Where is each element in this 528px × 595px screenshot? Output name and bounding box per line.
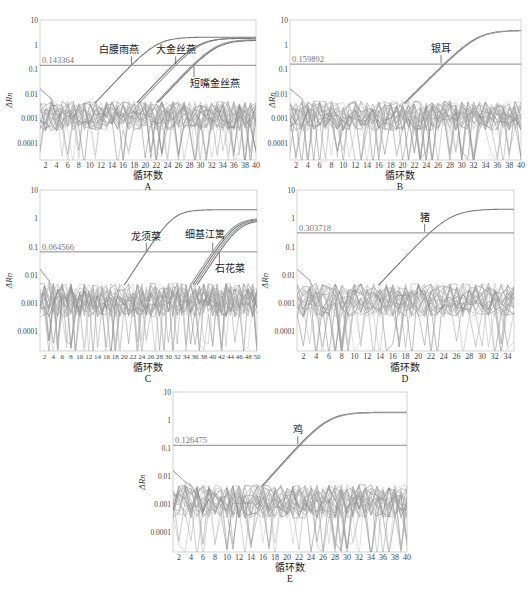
threshold-label: 0.303718 <box>299 223 331 233</box>
y-tick-label: 1 <box>284 41 288 50</box>
x-tick-label: 4 <box>52 353 56 361</box>
x-tick-label: 40 <box>517 161 525 170</box>
x-tick-label: 34 <box>504 352 512 361</box>
y-tick-label: 0.01 <box>25 90 38 99</box>
x-tick-label: 30 <box>478 352 486 361</box>
y-tick-label: 0.001 <box>21 114 38 123</box>
x-tick-label: 10 <box>350 352 358 361</box>
x-tick-label: 2 <box>43 353 47 361</box>
x-tick-label: 38 <box>200 353 208 361</box>
annotation-label: 鸡 <box>293 423 303 435</box>
x-tick-label: 26 <box>147 353 155 361</box>
panel-d: 1010.10.010.0010.0001ΔRn2468101214161820… <box>260 186 514 384</box>
x-tick-label: 4 <box>55 161 59 170</box>
x-tick-label: 16 <box>375 161 383 170</box>
x-tick-label: 6 <box>318 161 322 170</box>
x-tick-label: 36 <box>379 553 387 562</box>
x-tick-label: 24 <box>307 553 315 562</box>
x-tick-label: 4 <box>306 161 310 170</box>
annotation-label: 短嘴金丝燕 <box>190 77 240 89</box>
y-tick-label: 0.001 <box>21 299 38 308</box>
y-tick-label: 0.1 <box>29 65 39 74</box>
y-tick-label: 0.0001 <box>274 327 295 336</box>
x-tick-label: 44 <box>227 353 235 361</box>
y-axis-label: ΔRn <box>260 272 270 289</box>
y-tick-label: 0.001 <box>271 114 288 123</box>
x-tick-label: 16 <box>259 553 267 562</box>
y-axis-label: ΔRn <box>4 272 14 289</box>
y-tick-label: 0.0001 <box>17 327 38 336</box>
panel-caption: E <box>287 574 293 584</box>
y-tick-label: 0.1 <box>29 243 39 252</box>
x-tick-label: 30 <box>165 353 173 361</box>
y-tick-label: 0.01 <box>282 271 295 280</box>
y-tick-label: 1 <box>34 41 38 50</box>
panel-b: 1010.10.010.0010.0001ΔRn2468101214161820… <box>267 16 525 192</box>
x-tick-label: 16 <box>103 353 111 361</box>
x-tick-label: 22 <box>152 161 160 170</box>
x-tick-label: 6 <box>66 161 70 170</box>
x-tick-label: 22 <box>295 553 303 562</box>
x-tick-label: 18 <box>271 553 279 562</box>
x-tick-label: 42 <box>218 353 226 361</box>
x-tick-label: 28 <box>156 353 164 361</box>
x-tick-label: 18 <box>387 161 395 170</box>
x-tick-label: 12 <box>97 161 105 170</box>
x-tick-label: 30 <box>458 161 466 170</box>
x-tick-label: 16 <box>119 161 127 170</box>
x-tick-label: 8 <box>69 353 73 361</box>
y-tick-label: 0.0001 <box>150 528 171 537</box>
x-tick-label: 32 <box>208 161 216 170</box>
y-tick-label: 1 <box>291 214 295 223</box>
x-tick-label: 6 <box>201 553 205 562</box>
x-tick-label: 2 <box>177 553 181 562</box>
x-tick-label: 28 <box>186 161 194 170</box>
x-tick-label: 22 <box>427 352 435 361</box>
y-tick-label: 0.001 <box>154 500 171 509</box>
x-tick-label: 20 <box>141 161 149 170</box>
x-tick-label: 10 <box>339 161 347 170</box>
x-tick-label: 4 <box>189 553 193 562</box>
x-tick-label: 46 <box>236 353 244 361</box>
y-axis-label: ΔRn <box>267 92 277 109</box>
annotation-label: 大金丝燕 <box>156 43 196 55</box>
y-tick-label: 1 <box>34 214 38 223</box>
x-tick-label: 26 <box>319 553 327 562</box>
y-tick-label: 0.0001 <box>17 139 38 148</box>
threshold-label: 0.159892 <box>292 54 324 64</box>
x-tick-label: 28 <box>331 553 339 562</box>
x-tick-label: 14 <box>94 353 102 361</box>
y-tick-label: 0.1 <box>162 444 172 453</box>
x-tick-label: 14 <box>247 553 255 562</box>
x-tick-label: 32 <box>174 353 182 361</box>
annotation-label: 石花菜 <box>215 262 245 274</box>
x-tick-label: 20 <box>121 353 129 361</box>
x-tick-label: 8 <box>340 352 344 361</box>
x-tick-label: 20 <box>283 553 291 562</box>
x-axis-label: 循环数 <box>275 561 305 573</box>
x-axis-label: 循环数 <box>133 361 163 373</box>
y-tick-label: 1 <box>167 416 171 425</box>
x-tick-label: 20 <box>414 352 422 361</box>
x-axis-label: 循环数 <box>385 169 415 181</box>
x-tick-label: 12 <box>351 161 359 170</box>
x-tick-label: 8 <box>329 161 333 170</box>
x-tick-label: 26 <box>174 161 182 170</box>
x-tick-label: 12 <box>235 553 243 562</box>
qpcr-amplification-figure: 1010.10.010.0010.0001ΔRn2468101214161820… <box>0 0 528 595</box>
x-tick-label: 26 <box>434 161 442 170</box>
x-tick-label: 12 <box>363 352 371 361</box>
x-tick-label: 18 <box>112 353 120 361</box>
x-tick-label: 18 <box>130 161 138 170</box>
x-tick-label: 48 <box>245 353 253 361</box>
panel-a: 1010.10.010.0010.0001ΔRn2468101214161820… <box>4 16 260 192</box>
x-tick-label: 40 <box>403 553 411 562</box>
x-tick-label: 24 <box>138 353 146 361</box>
plot-frame <box>173 392 407 552</box>
x-tick-label: 14 <box>376 352 384 361</box>
x-tick-label: 20 <box>399 161 407 170</box>
x-tick-label: 40 <box>209 353 217 361</box>
x-tick-label: 2 <box>294 161 298 170</box>
x-tick-label: 34 <box>481 161 489 170</box>
annotation-label: 龙须菜 <box>131 230 161 242</box>
